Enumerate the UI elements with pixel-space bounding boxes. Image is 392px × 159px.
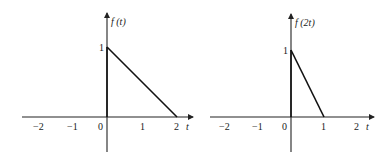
x-tick-0: 0 xyxy=(282,121,287,132)
diagram-canvas: f (t) 1 −2 −1 0 1 2 t f (2t) 1 −2 −1 0 1… xyxy=(0,0,392,159)
x-tick-0: 0 xyxy=(98,121,103,132)
y-tick-1: 1 xyxy=(283,45,288,56)
x-tick-neg2: −2 xyxy=(33,121,44,132)
x-tick-2: 2 xyxy=(174,121,179,132)
signal-ramp xyxy=(291,50,324,117)
x-tick-2: 2 xyxy=(354,121,359,132)
x-tick-neg1: −1 xyxy=(252,121,263,132)
y-axis-label: f (2t) xyxy=(295,17,315,29)
x-axis-label: t xyxy=(186,121,189,132)
x-axis-label: t xyxy=(366,121,369,132)
signal-ramp xyxy=(107,47,177,117)
plot-f-2t: f (2t) 1 −2 −1 0 1 2 t xyxy=(210,14,374,152)
x-tick-1: 1 xyxy=(140,121,145,132)
x-tick-1: 1 xyxy=(321,121,326,132)
y-tick-1: 1 xyxy=(99,42,104,53)
plot-f-t: f (t) 1 −2 −1 0 1 2 t xyxy=(22,13,193,152)
x-tick-neg1: −1 xyxy=(67,121,78,132)
x-tick-neg2: −2 xyxy=(219,121,230,132)
y-axis-label: f (t) xyxy=(111,16,126,28)
